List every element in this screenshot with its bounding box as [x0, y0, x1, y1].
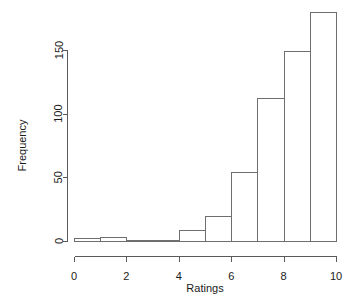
- y-axis-title: Frequency: [16, 119, 28, 171]
- histogram-bar: [232, 173, 258, 242]
- histogram-bar: [206, 216, 232, 241]
- histogram-bar: [179, 230, 205, 241]
- histogram-bar: [153, 240, 179, 241]
- histogram-bars: [75, 12, 337, 241]
- x-axis-tick-label: 6: [228, 270, 234, 282]
- y-axis-tick-label: 0: [53, 238, 65, 244]
- x-axis: 0246810: [71, 257, 342, 282]
- x-axis-tick-label: 2: [123, 270, 129, 282]
- histogram-bar: [310, 12, 336, 241]
- x-axis-tick-label: 0: [71, 270, 77, 282]
- histogram-bar: [75, 239, 101, 242]
- histogram-figure: 050100150Frequency0246810Ratings: [0, 0, 356, 306]
- histogram-bar: [101, 238, 127, 242]
- x-axis-title: Ratings: [186, 282, 224, 294]
- histogram-bar: [258, 99, 284, 242]
- y-axis-tick-label: 100: [53, 104, 65, 122]
- x-axis-tick-label: 10: [330, 270, 342, 282]
- x-axis-tick-label: 4: [176, 270, 182, 282]
- histogram-bar: [127, 240, 153, 241]
- x-axis-tick-label: 8: [281, 270, 287, 282]
- y-axis-tick-label: 50: [53, 171, 65, 183]
- y-axis: 050100150: [53, 41, 68, 244]
- histogram-plot-area: 050100150Frequency0246810Ratings: [0, 0, 356, 306]
- y-axis-tick-label: 150: [53, 41, 65, 59]
- histogram-bar: [284, 52, 310, 242]
